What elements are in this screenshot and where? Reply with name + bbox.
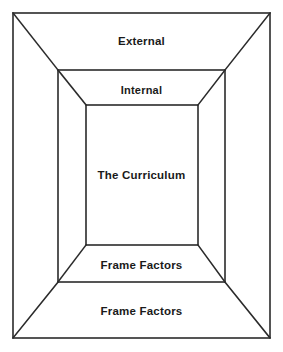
diagonal-outer-to-middle-bottom-left bbox=[13, 282, 58, 338]
diagonal-middle-to-inner-bottom-right bbox=[198, 245, 225, 282]
diagonal-outer-to-middle-top-left bbox=[13, 13, 58, 70]
diagram-canvas: External Internal The Curriculum Frame F… bbox=[0, 0, 283, 352]
diagonal-outer-to-middle-top-right bbox=[225, 13, 270, 70]
label-frame-factors-inner: Frame Factors bbox=[101, 260, 183, 272]
diagonal-middle-to-inner-top-right bbox=[198, 70, 225, 105]
diagonal-outer-to-middle-bottom-right bbox=[225, 282, 270, 338]
label-internal: Internal bbox=[121, 85, 162, 96]
diagonal-middle-to-inner-bottom-left bbox=[58, 245, 86, 282]
label-the-curriculum: The Curriculum bbox=[98, 170, 186, 182]
label-frame-factors-outer: Frame Factors bbox=[101, 306, 183, 318]
diagonal-middle-to-inner-top-left bbox=[58, 70, 86, 105]
label-external: External bbox=[118, 36, 165, 48]
